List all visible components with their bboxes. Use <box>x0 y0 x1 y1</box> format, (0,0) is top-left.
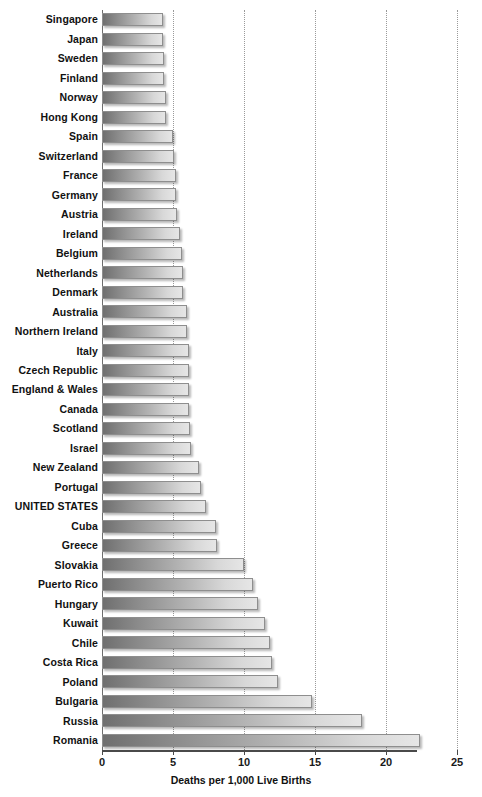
bar-australia[interactable] <box>102 305 187 318</box>
bar-new-zealand[interactable] <box>102 461 199 474</box>
bar-netherlands[interactable] <box>102 266 183 279</box>
category-label-cuba: Cuba <box>0 521 98 532</box>
bar-row: Russia <box>0 711 482 730</box>
bar-slovakia[interactable] <box>102 558 244 571</box>
category-label-australia: Australia <box>0 307 98 318</box>
bar-wrapper <box>102 208 177 221</box>
bar-wrapper <box>102 344 189 357</box>
x-axis-line <box>102 750 417 752</box>
bar-romania[interactable] <box>102 734 420 747</box>
bar-russia[interactable] <box>102 714 362 727</box>
bar-wrapper <box>102 130 173 143</box>
bar-row: Portugal <box>0 477 482 496</box>
bar-row: Finland <box>0 68 482 87</box>
bar-sweden[interactable] <box>102 52 164 65</box>
bar-cuba[interactable] <box>102 520 216 533</box>
bar-hong-kong[interactable] <box>102 111 166 124</box>
category-label-northern-ireland: Northern Ireland <box>0 326 98 337</box>
bar-wrapper <box>102 578 253 591</box>
bar-germany[interactable] <box>102 188 176 201</box>
bar-row: UNITED STATES <box>0 497 482 516</box>
tick-mark-15 <box>315 750 316 755</box>
bar-wrapper <box>102 442 191 455</box>
category-label-switzerland: Switzerland <box>0 151 98 162</box>
bar-wrapper <box>102 188 176 201</box>
bar-spain[interactable] <box>102 130 173 143</box>
category-label-austria: Austria <box>0 209 98 220</box>
bar-scotland[interactable] <box>102 422 190 435</box>
bar-row: Hong Kong <box>0 107 482 126</box>
bar-wrapper <box>102 33 163 46</box>
category-label-romania: Romania <box>0 735 98 746</box>
bar-wrapper <box>102 695 312 708</box>
bar-wrapper <box>102 305 187 318</box>
bar-switzerland[interactable] <box>102 150 174 163</box>
bar-chile[interactable] <box>102 636 270 649</box>
category-label-poland: Poland <box>0 677 98 688</box>
bar-wrapper <box>102 13 163 26</box>
category-label-norway: Norway <box>0 92 98 103</box>
bar-portugal[interactable] <box>102 481 201 494</box>
bar-france[interactable] <box>102 169 176 182</box>
bar-wrapper <box>102 52 164 65</box>
bar-row: Sweden <box>0 49 482 68</box>
bar-row: Denmark <box>0 283 482 302</box>
category-label-chile: Chile <box>0 638 98 649</box>
bar-finland[interactable] <box>102 72 164 85</box>
bar-row: Romania <box>0 731 482 750</box>
bar-norway[interactable] <box>102 91 166 104</box>
category-label-netherlands: Netherlands <box>0 268 98 279</box>
tick-label-10: 10 <box>238 757 250 768</box>
category-label-belgium: Belgium <box>0 248 98 259</box>
bar-austria[interactable] <box>102 208 177 221</box>
bar-bulgaria[interactable] <box>102 695 312 708</box>
bar-hungary[interactable] <box>102 597 258 610</box>
bar-wrapper <box>102 422 190 435</box>
bar-row: France <box>0 166 482 185</box>
category-label-france: France <box>0 170 98 181</box>
category-label-finland: Finland <box>0 73 98 84</box>
bar-israel[interactable] <box>102 442 191 455</box>
bar-row: Costa Rica <box>0 653 482 672</box>
tick-mark-10 <box>244 750 245 755</box>
bar-row: England & Wales <box>0 380 482 399</box>
bar-row: Spain <box>0 127 482 146</box>
tick-label-15: 15 <box>309 757 321 768</box>
category-label-canada: Canada <box>0 404 98 415</box>
tick-label-25: 25 <box>451 757 463 768</box>
bar-belgium[interactable] <box>102 247 182 260</box>
bar-denmark[interactable] <box>102 286 183 299</box>
bar-row: Canada <box>0 399 482 418</box>
bar-greece[interactable] <box>102 539 217 552</box>
bar-row: Hungary <box>0 594 482 613</box>
category-label-scotland: Scotland <box>0 423 98 434</box>
bar-wrapper <box>102 734 420 747</box>
bar-northern-ireland[interactable] <box>102 325 187 338</box>
bar-czech-republic[interactable] <box>102 364 189 377</box>
bar-japan[interactable] <box>102 33 163 46</box>
bar-wrapper <box>102 461 199 474</box>
bar-italy[interactable] <box>102 344 189 357</box>
bar-england-wales[interactable] <box>102 383 189 396</box>
bar-singapore[interactable] <box>102 13 163 26</box>
bar-wrapper <box>102 539 217 552</box>
category-label-hong-kong: Hong Kong <box>0 112 98 123</box>
bar-wrapper <box>102 111 166 124</box>
bar-wrapper <box>102 227 180 240</box>
bar-wrapper <box>102 656 272 669</box>
bar-kuwait[interactable] <box>102 617 265 630</box>
bar-united-states[interactable] <box>102 500 206 513</box>
category-label-costa-rica: Costa Rica <box>0 657 98 668</box>
bar-poland[interactable] <box>102 675 278 688</box>
bar-puerto-rico[interactable] <box>102 578 253 591</box>
bar-costa-rica[interactable] <box>102 656 272 669</box>
bar-row: Puerto Rico <box>0 575 482 594</box>
bar-canada[interactable] <box>102 403 189 416</box>
bar-row: Greece <box>0 536 482 555</box>
bar-ireland[interactable] <box>102 227 180 240</box>
bar-wrapper <box>102 72 164 85</box>
bar-row: Belgium <box>0 244 482 263</box>
bar-row: Israel <box>0 438 482 457</box>
category-label-denmark: Denmark <box>0 287 98 298</box>
bar-row: Ireland <box>0 224 482 243</box>
